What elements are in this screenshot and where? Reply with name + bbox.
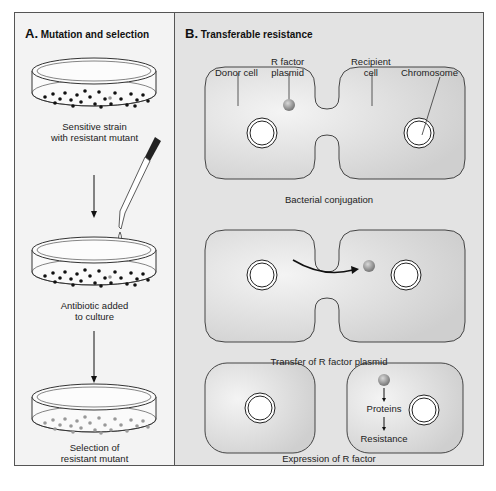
caption-bacterial-conjugation: Bacterial conjugation <box>175 194 483 205</box>
label-proteins: Proteins <box>361 403 407 414</box>
step-2-label: Antibiotic added to culture <box>15 300 174 322</box>
petri-dish-1 <box>32 58 156 109</box>
panel-b-illustration <box>175 13 483 465</box>
stage-transfer <box>205 230 465 342</box>
label-donor-cell: Donor cell <box>215 67 258 78</box>
label-recipient-cell: Recipient cell <box>351 56 391 78</box>
panel-mutation-selection: A. Mutation and selection <box>15 13 175 465</box>
petri-dish-3 <box>32 384 156 435</box>
caption-transfer-r-factor: Transfer of R factor plasmid <box>175 356 483 367</box>
stage-conjugation <box>205 67 465 179</box>
transferring-cells <box>205 230 465 342</box>
label-r-factor-line-1: R factor <box>271 56 304 67</box>
step-1-line-2: with resistant mutant <box>15 132 174 143</box>
step-3-line-2: resistant mutant <box>15 453 174 464</box>
panel-a-illustration <box>15 13 174 465</box>
arrow-down-icon <box>91 211 97 218</box>
arrow-down-icon <box>91 376 97 383</box>
label-r-factor-line-2: plasmid <box>271 67 304 78</box>
step-2-line-1: Antibiotic added <box>15 300 174 311</box>
transferred-plasmid <box>363 260 375 272</box>
label-recipient-line-2: cell <box>351 67 391 78</box>
step-1-line-1: Sensitive strain <box>15 121 174 132</box>
step-2-line-2: to culture <box>15 311 174 322</box>
petri-dish-2 <box>32 237 156 288</box>
step-3-line-1: Selection of <box>15 442 174 453</box>
step-1-label: Sensitive strain with resistant mutant <box>15 121 174 143</box>
caption-expression-r-factor: Expression of R factor <box>175 453 483 464</box>
r-factor-plasmid <box>283 99 295 111</box>
expressed-plasmid <box>378 374 390 386</box>
panel-transferable-resistance: B. Transferable resistance <box>175 13 483 465</box>
label-recipient-line-1: Recipient <box>351 56 391 67</box>
figure-frame: A. Mutation and selection <box>14 12 484 466</box>
stage-expression <box>205 363 463 453</box>
pipette-icon <box>119 137 162 256</box>
label-r-factor-plasmid: R factor plasmid <box>271 56 304 78</box>
label-chromosome: Chromosome <box>401 67 458 78</box>
label-resistance: Resistance <box>353 433 415 444</box>
step-3-label: Selection of resistant mutant <box>15 442 174 464</box>
